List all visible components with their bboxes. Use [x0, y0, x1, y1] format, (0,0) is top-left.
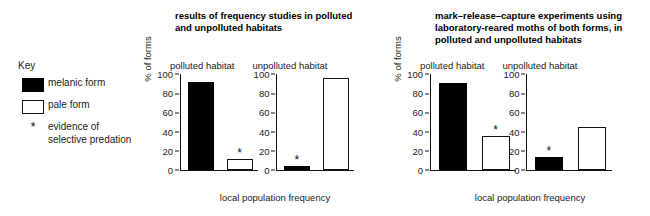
y-axis-label: % of forms — [142, 24, 153, 94]
y-tick-20: 20 — [412, 145, 429, 156]
x-axis-line — [180, 170, 258, 171]
melanic-swatch — [22, 78, 44, 92]
key-item-label-pale: pale form — [48, 99, 90, 112]
panel-polluted-habitat: polluted habitat % of forms 100 80 60 40… — [150, 60, 234, 178]
plot-area: % of forms 100 80 60 40 20 0 — [150, 74, 234, 178]
y-tick-40: 40 — [412, 126, 429, 137]
bar-melanic[interactable] — [188, 82, 214, 170]
bar-pale[interactable] — [578, 127, 606, 170]
bar-group: * — [277, 74, 355, 170]
bar-pale[interactable] — [323, 78, 349, 170]
panel-unpolluted-habitat: unpolluted habitat 100 80 60 40 20 0 — [502, 60, 577, 178]
bar-slot-melanic — [181, 74, 220, 170]
key-item-label-melanic: melanic form — [48, 77, 105, 90]
y-tick-0: 0 — [264, 165, 275, 176]
y-tick-40: 40 — [259, 126, 276, 137]
y-tick-80: 80 — [509, 88, 526, 99]
predation-asterisk-icon: * — [237, 149, 242, 157]
y-axis-label: % of forms — [392, 24, 403, 94]
y-tick-40: 40 — [509, 126, 526, 137]
plot-area: % of forms 100 80 60 40 20 0 — [400, 74, 484, 178]
y-tick-80: 80 — [162, 88, 179, 99]
key-title: Key — [18, 60, 138, 71]
axis-wrap: 100 80 60 40 20 0 * — [276, 74, 354, 178]
y-tick-0: 0 — [514, 165, 525, 176]
melanic-swatch-wrap — [18, 77, 48, 92]
asterisk-swatch-wrap: * — [18, 121, 48, 131]
bar-melanic[interactable]: * — [284, 166, 310, 170]
y-tick-100: 100 — [157, 69, 179, 80]
bar-group: * — [527, 74, 613, 170]
key-item-pale: pale form — [18, 99, 138, 114]
axis-wrap: 100 80 60 40 20 0 — [180, 74, 258, 178]
y-tick-80: 80 — [412, 88, 429, 99]
bar-slot-melanic: * — [277, 74, 316, 170]
y-tick-20: 20 — [509, 145, 526, 156]
y-tick-20: 20 — [162, 145, 179, 156]
bar-slot-pale — [316, 74, 355, 170]
predation-asterisk-icon: * — [493, 126, 498, 134]
y-tick-100: 100 — [504, 69, 526, 80]
y-tick-60: 60 — [259, 107, 276, 118]
y-tick-60: 60 — [412, 107, 429, 118]
pale-swatch — [22, 100, 44, 114]
y-tick-80: 80 — [259, 88, 276, 99]
asterisk-icon: * — [30, 122, 35, 131]
y-tick-0: 0 — [418, 165, 429, 176]
predation-asterisk-icon: * — [547, 147, 552, 155]
x-axis-line — [276, 170, 354, 171]
x-axis-label: local population frequency — [430, 192, 630, 203]
key-item-predation: * evidence of selective predation — [18, 121, 138, 146]
panel-group: polluted habitat % of forms 100 80 60 40… — [150, 60, 327, 178]
figure-title: results of frequency studies in polluted… — [175, 10, 365, 34]
key-legend: Key melanic form pale form * evidence of… — [18, 60, 138, 153]
y-tick-100: 100 — [407, 69, 429, 80]
y-tick-20: 20 — [259, 145, 276, 156]
plot-area: 100 80 60 40 20 0 * — [252, 74, 327, 178]
y-tick-100: 100 — [254, 69, 276, 80]
figure-title: mark–release–capture experiments using l… — [435, 10, 650, 46]
pale-swatch-wrap — [18, 99, 48, 114]
bar-melanic[interactable]: * — [535, 157, 563, 170]
bar-slot-melanic: * — [527, 74, 570, 170]
bar-melanic[interactable] — [439, 83, 467, 170]
y-tick-40: 40 — [162, 126, 179, 137]
bar-slot-melanic — [431, 74, 474, 170]
y-tick-0: 0 — [168, 165, 179, 176]
key-item-label-predation: evidence of selective predation — [48, 121, 138, 146]
predation-asterisk-icon: * — [295, 156, 300, 164]
bar-pale[interactable]: * — [227, 159, 253, 170]
y-tick-60: 60 — [162, 107, 179, 118]
panel-unpolluted-habitat: unpolluted habitat 100 80 60 40 20 0 — [252, 60, 327, 178]
panel-group: polluted habitat % of forms 100 80 60 40… — [400, 60, 577, 178]
bar-slot-pale — [570, 74, 613, 170]
y-tick-60: 60 — [509, 107, 526, 118]
x-axis-line — [526, 170, 612, 171]
key-item-melanic: melanic form — [18, 77, 138, 92]
plot-area: 100 80 60 40 20 0 * — [502, 74, 577, 178]
x-axis-label: local population frequency — [180, 192, 370, 203]
bar-group: * — [181, 74, 259, 170]
axis-wrap: 100 80 60 40 20 0 * — [526, 74, 612, 178]
panel-polluted-habitat: polluted habitat % of forms 100 80 60 40… — [400, 60, 484, 178]
